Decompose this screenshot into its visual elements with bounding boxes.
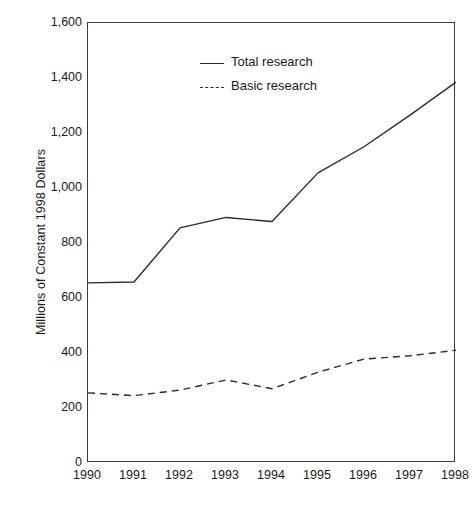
plot-area: Total research Basic research bbox=[87, 22, 455, 462]
y-axis-tick-label: 1,400 bbox=[51, 70, 82, 84]
y-axis-tick-label: 1,000 bbox=[51, 180, 82, 194]
y-axis-tick-label: 400 bbox=[61, 345, 82, 359]
series-line-total-research bbox=[88, 82, 456, 283]
legend-item-basic-research: Basic research bbox=[200, 73, 370, 97]
legend-swatch-solid-icon bbox=[200, 55, 224, 67]
x-axis-tick-label: 1991 bbox=[119, 468, 147, 482]
y-axis-tick-labels: 02004006008001,0001,2001,4001,600 bbox=[44, 22, 82, 462]
legend-swatch-dashed-icon bbox=[200, 79, 224, 91]
x-axis-tick-label: 1996 bbox=[349, 468, 377, 482]
x-axis-tick-label: 1997 bbox=[395, 468, 423, 482]
x-axis-tick-label: 1995 bbox=[303, 468, 331, 482]
legend-label-total-research: Total research bbox=[231, 54, 313, 69]
y-axis-tick-label: 0 bbox=[75, 455, 82, 469]
x-axis-tick-labels: 199019911992199319941995199619971998 bbox=[87, 468, 455, 488]
x-axis-tick-label: 1993 bbox=[211, 468, 239, 482]
legend-label-basic-research: Basic research bbox=[231, 78, 317, 93]
legend-item-total-research: Total research bbox=[200, 49, 370, 73]
series-line-basic-research bbox=[88, 350, 456, 395]
x-axis-tick-label: 1998 bbox=[441, 468, 469, 482]
y-axis-tick-label: 800 bbox=[61, 235, 82, 249]
x-axis-tick-label: 1992 bbox=[165, 468, 193, 482]
y-axis-tick-label: 1,200 bbox=[51, 125, 82, 139]
y-axis-tick-label: 1,600 bbox=[51, 15, 82, 29]
y-axis-tick-label: 200 bbox=[61, 400, 82, 414]
chart-legend: Total research Basic research bbox=[200, 49, 370, 97]
x-axis-tick-label: 1994 bbox=[257, 468, 285, 482]
x-axis-tick-label: 1990 bbox=[73, 468, 101, 482]
y-axis-tick-label: 600 bbox=[61, 290, 82, 304]
line-chart: Millions of Constant 1998 Dollars 020040… bbox=[0, 0, 472, 515]
